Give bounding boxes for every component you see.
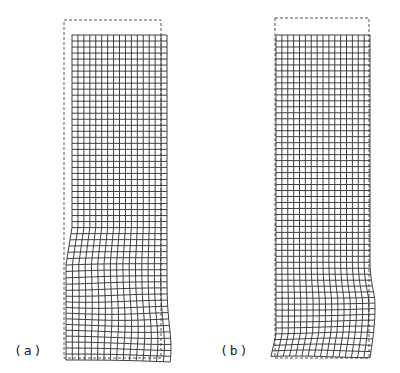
mesh-col-line bbox=[148, 35, 151, 361]
panel-a-label: (a) bbox=[14, 343, 43, 358]
mesh-row-line bbox=[66, 288, 167, 290]
mesh-col-line bbox=[142, 35, 145, 361]
mesh-row-line bbox=[66, 313, 168, 315]
mesh-row-line bbox=[66, 348, 171, 350]
panel-b bbox=[271, 18, 375, 358]
mesh-row-line bbox=[66, 342, 171, 344]
panel-b-label: (b) bbox=[220, 343, 249, 358]
panel-a bbox=[64, 20, 171, 362]
mesh-row-line bbox=[66, 354, 171, 356]
mesh-row-line bbox=[66, 306, 168, 308]
mesh-row-line bbox=[66, 324, 169, 326]
mesh-col-line bbox=[339, 35, 344, 357]
mesh-col-line bbox=[66, 35, 72, 360]
mesh-col-line bbox=[370, 35, 375, 358]
mesh-row-line bbox=[66, 360, 170, 362]
mesh-row-line bbox=[66, 300, 167, 302]
mesh-row-line bbox=[66, 294, 167, 296]
undeformed-outline bbox=[275, 18, 369, 358]
mesh-canvas bbox=[0, 0, 400, 373]
mesh-row-line bbox=[66, 282, 167, 284]
mesh-row-line bbox=[66, 319, 169, 321]
